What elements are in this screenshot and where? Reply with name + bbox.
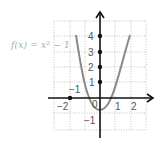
x-label-neg2: −2 [57, 101, 69, 112]
point-neg2-0 [68, 96, 72, 100]
y-label-1: 1 [89, 77, 95, 88]
parabola-graph: 4 3 2 1 −1 −2 0 1 2 −1 [0, 0, 162, 145]
label-neg1-upper: −1 [69, 84, 81, 95]
origin-label: 0 [92, 99, 98, 110]
point-0-2 [98, 65, 102, 69]
y-label-neg1: −1 [84, 115, 96, 126]
axes [48, 13, 152, 138]
x-label-1: 1 [115, 101, 121, 112]
y-label-4: 4 [88, 31, 94, 42]
y-label-2: 2 [88, 62, 94, 73]
point-0-3 [98, 50, 102, 54]
x-label-2: 2 [131, 101, 137, 112]
point-0-1 [98, 80, 102, 84]
y-label-3: 3 [88, 47, 94, 58]
point-0-4 [98, 34, 102, 38]
